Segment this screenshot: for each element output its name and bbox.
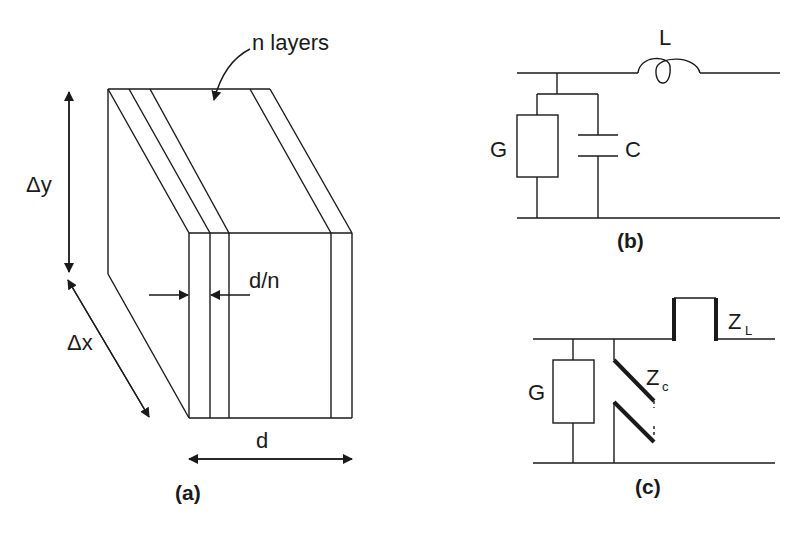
inductor-coil-symbol (638, 58, 700, 83)
n-layers-pointer (214, 49, 250, 100)
zc-label: Z c (646, 365, 669, 394)
conductance-box-symbol-c (553, 360, 594, 423)
capacitor-label: C (625, 137, 641, 162)
delta-x-label: Δx (67, 330, 93, 355)
panel-b-lumped-circuit (517, 58, 780, 218)
panel-a-layered-slab (108, 89, 352, 418)
figure-canvas: n layers Δy Δx d/n d (a) (0, 0, 804, 534)
n-layers-label: n layers (252, 30, 329, 55)
inductor-label: L (659, 25, 671, 50)
panel-a-caption: (a) (175, 481, 201, 504)
conductance-label-b: G (490, 137, 507, 162)
conductance-label-c: G (528, 380, 545, 405)
zl-label: Z L (728, 309, 752, 338)
svg-text:c: c (662, 379, 669, 394)
delta-y-label: Δy (26, 172, 52, 197)
svg-text:Z: Z (728, 309, 741, 334)
svg-text:L: L (745, 323, 752, 338)
panel-b-caption: (b) (617, 229, 644, 252)
conductance-box-symbol (517, 115, 558, 177)
layer-thickness-label: d/n (249, 268, 280, 293)
panel-c-caption: (c) (635, 475, 661, 498)
total-thickness-label: d (256, 428, 268, 453)
svg-text:Z: Z (646, 365, 659, 390)
